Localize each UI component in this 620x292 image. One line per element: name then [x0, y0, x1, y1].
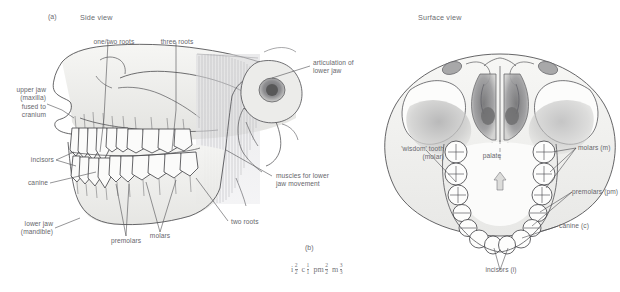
label-upper-jaw-maxilla: upper jaw (maxilla) fused to cranium [0, 86, 46, 120]
dental-formula: i 2 2 c 1 1 pm 2 2 m 3 3 [291, 263, 343, 276]
term-fraction: 2 2 [325, 263, 328, 276]
label-incisors-surface: incisors (i) [478, 266, 524, 274]
label-palate: palate [472, 152, 512, 160]
term-fraction: 2 2 [295, 263, 298, 276]
term-symbol: c [302, 265, 306, 274]
label-canine-surface: canine (c) [559, 222, 605, 230]
term-fraction: 1 1 [307, 263, 310, 276]
term-fraction: 3 3 [340, 263, 343, 276]
term-symbol: pm [313, 265, 323, 274]
label-molars-surface: molars (m) [578, 144, 620, 152]
label-lower-jaw-mandible: lower jaw (mandible) [0, 220, 53, 237]
label-incisors-side: incisors [0, 156, 54, 164]
label-one-two-roots: one/two roots [85, 38, 143, 46]
label-three-roots: three roots [152, 38, 202, 46]
term-symbol: m [332, 265, 338, 274]
label-articulation-of-lower-jaw: articulation of lower jaw [313, 59, 383, 76]
label-muscles-jaw-movement: muscles for lower jaw movement [276, 172, 348, 189]
dental-formula-term: c 1 1 [302, 263, 311, 276]
figure-root: (a) Side view [0, 0, 620, 292]
dental-formula-term: m 3 3 [332, 263, 344, 276]
panel-b-title: Surface view [418, 13, 462, 22]
panel-b-tag: (b) [305, 244, 314, 251]
label-wisdom-tooth: 'wisdom' tooth (molar) [380, 145, 444, 162]
term-symbol: i [291, 265, 293, 274]
label-canine-side: canine [0, 179, 48, 187]
label-premolars-surface: premolars (pm) [572, 188, 620, 196]
dental-formula-term: i 2 2 [291, 263, 299, 276]
label-two-roots: two roots [231, 218, 281, 226]
dental-formula-term: pm 2 2 [313, 263, 329, 276]
label-molars-side: molars [140, 232, 180, 240]
